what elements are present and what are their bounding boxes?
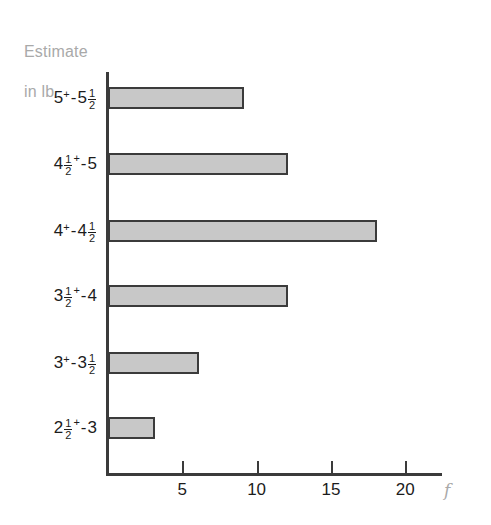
x-axis-line bbox=[106, 473, 442, 476]
category-label: 5+-512 bbox=[54, 87, 97, 109]
category-label: 3+-312 bbox=[54, 352, 97, 374]
fraction: 12 bbox=[88, 221, 96, 244]
y-axis-line bbox=[106, 72, 109, 476]
fraction: 12 bbox=[64, 154, 72, 177]
bar bbox=[108, 153, 288, 175]
x-axis-tick bbox=[182, 461, 184, 474]
bar bbox=[108, 417, 155, 439]
fraction: 12 bbox=[88, 88, 96, 111]
fraction: 12 bbox=[64, 418, 72, 441]
x-axis-tick-label: 15 bbox=[321, 480, 340, 500]
x-axis-tick bbox=[331, 461, 333, 474]
bar bbox=[108, 87, 244, 109]
fraction: 12 bbox=[88, 353, 96, 376]
x-axis-tick-label: 10 bbox=[247, 480, 266, 500]
bar bbox=[108, 220, 377, 242]
x-axis-tick bbox=[257, 461, 259, 474]
bar bbox=[108, 352, 199, 374]
x-axis-tick-label: 20 bbox=[396, 480, 415, 500]
fraction: 12 bbox=[64, 286, 72, 309]
bar bbox=[108, 285, 288, 307]
category-label: 4+-412 bbox=[54, 220, 97, 242]
plot-area: 5101520 5+-512412+-54+-412312+-43+-31221… bbox=[0, 0, 491, 525]
category-label: 212+-3 bbox=[54, 417, 97, 439]
category-label: 412+-5 bbox=[54, 153, 97, 175]
category-label: 312+-4 bbox=[54, 285, 97, 307]
x-axis-tick-label: 5 bbox=[178, 480, 187, 500]
x-axis-unit-label: f bbox=[444, 480, 450, 500]
x-axis-tick bbox=[405, 461, 407, 474]
bar-chart: Estimate in lb 5101520 5+-512412+-54+-41… bbox=[0, 0, 491, 525]
